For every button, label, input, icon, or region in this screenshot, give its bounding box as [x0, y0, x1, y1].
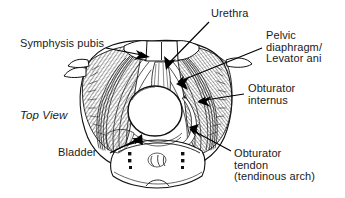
label-symphysis-pubis: Symphysis pubis	[20, 38, 104, 50]
central-hiatus-opening	[128, 86, 182, 136]
label-obturator-tendon-line-3: (tendinous arch)	[234, 171, 315, 183]
label-obturator-internus-line-1: Obturator	[248, 83, 295, 95]
label-bladder-line-1: Bladder	[58, 147, 97, 159]
right-lateral-flange	[226, 58, 252, 67]
label-pelvic-diaphragm-line-3: Levator ani	[266, 53, 322, 65]
label-pelvic-diaphragm-line-1: Pelvic	[266, 30, 322, 42]
left-lateral-flange	[68, 59, 89, 67]
anatomy-figure-page: Urethra Symphysis pubis Pelvic diaphragm…	[0, 0, 345, 198]
label-obturator-tendon: Obturator tendon (tendinous arch)	[234, 148, 315, 183]
label-urethra-line-1: Urethra	[211, 8, 248, 20]
label-urethra: Urethra	[211, 8, 248, 20]
label-obturator-internus: Obturator internus	[248, 83, 295, 106]
label-symphysis-pubis-line-1: Symphysis pubis	[20, 38, 104, 50]
label-bladder: Bladder	[58, 147, 97, 159]
label-top-view-text: Top View	[20, 110, 67, 122]
label-obturator-tendon-line-1: Obturator	[234, 148, 315, 160]
label-obturator-internus-line-2: internus	[248, 95, 295, 107]
label-top-view: Top View	[20, 110, 67, 122]
label-pelvic-diaphragm: Pelvic diaphragm/ Levator ani	[266, 30, 322, 65]
left-pubic-ramus	[64, 67, 86, 77]
